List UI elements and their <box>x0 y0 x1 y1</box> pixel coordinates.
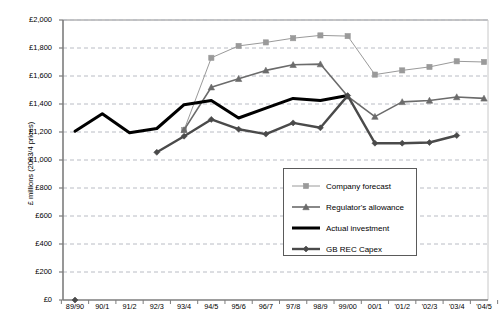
chart-legend: Company forecastRegulator's allowanceAct… <box>283 168 417 256</box>
legend-item: GB REC Capex <box>284 238 418 260</box>
x-axis-tick-labels: 89/9090/191/292/393/494/595/696/797/898/… <box>0 0 501 330</box>
x-axis-tick-label: '03/4 <box>449 303 465 310</box>
x-axis-tick-label: 99/00 <box>339 303 357 310</box>
line-chart: £ millions (2003/4 prices) £0£200£400£60… <box>0 0 501 330</box>
x-axis-tick-label: 95/6 <box>231 303 245 310</box>
legend-swatch-triangle-icon <box>290 200 322 214</box>
x-axis-tick-label: '04/5 <box>476 303 492 310</box>
x-axis-tick-label: '01/2 <box>394 303 410 310</box>
x-axis-tick-label: 00/1 <box>368 303 382 310</box>
x-axis-tick-label: 98/9 <box>313 303 327 310</box>
legend-swatch-diamond-icon <box>290 242 322 256</box>
x-axis-tick-label: '02/3 <box>422 303 438 310</box>
legend-item: Regulator's allowance <box>284 196 418 218</box>
legend-swatch-square-icon <box>290 179 322 193</box>
legend-label: GB REC Capex <box>326 245 382 254</box>
x-axis-tick-label: 97/8 <box>286 303 300 310</box>
x-axis-tick-label: 89/90 <box>66 303 84 310</box>
legend-label: Regulator's allowance <box>326 203 404 212</box>
x-axis-tick-label: 96/7 <box>259 303 273 310</box>
x-axis-tick-label: 91/2 <box>122 303 136 310</box>
legend-label: Actual investment <box>326 224 389 233</box>
legend-item: Company forecast <box>284 175 418 197</box>
x-axis-tick-label: 90/1 <box>95 303 109 310</box>
x-axis-tick-label: 93/4 <box>177 303 191 310</box>
legend-item: Actual investment <box>284 217 418 239</box>
legend-swatch-none-icon <box>290 221 322 235</box>
legend-label: Company forecast <box>326 182 391 191</box>
x-axis-tick-label: 92/3 <box>150 303 164 310</box>
data-point-marker <box>303 246 309 252</box>
x-axis-tick-label: 94/5 <box>204 303 218 310</box>
data-point-marker <box>303 183 308 188</box>
